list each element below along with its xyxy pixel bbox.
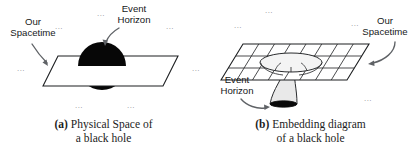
our-spacetime-arrow <box>373 42 395 63</box>
our-spacetime-label-line1: Our <box>25 16 42 27</box>
event-horizon-label-line1: Event <box>122 3 147 14</box>
panel-b-caption-tag: (b) <box>255 118 269 130</box>
panel-b-caption: (b) Embedding diagram of a black hole <box>207 118 414 145</box>
ellipsis-dots: ... <box>127 101 135 110</box>
event-horizon-disc <box>270 101 297 107</box>
ellipsis-dots: ... <box>97 9 105 18</box>
event-horizon-arrow <box>106 28 119 42</box>
our-spacetime-label-line2: Spacetime <box>10 27 55 38</box>
ellipsis-dots: ... <box>17 64 25 73</box>
ellipsis-dots: ... <box>234 21 242 30</box>
panel-b-caption-line2: of a black hole <box>207 132 414 146</box>
our-spacetime-arrowhead-icon <box>43 60 49 67</box>
our-spacetime-label-line2: Spacetime <box>362 26 407 37</box>
figure-root: ... ... ... ... ... ... ... Our Spacetim… <box>0 0 414 162</box>
ellipsis-dots: ... <box>166 22 174 31</box>
our-spacetime-arrowhead-icon <box>368 61 375 67</box>
event-horizon-arrowhead-icon <box>264 105 270 111</box>
event-horizon-label-line2: Horizon <box>117 14 150 25</box>
ellipsis-dots: ... <box>364 94 372 103</box>
panel-a-caption: (a) Physical Space of a black hole <box>0 118 207 145</box>
ellipsis-dots: ... <box>55 22 63 31</box>
panel-b-diagram: ... ... ... ... <box>207 0 414 118</box>
panel-a-caption-line1: Physical Space of <box>71 118 153 130</box>
panel-a-caption-line2: a black hole <box>0 132 207 146</box>
our-spacetime-label-line1: Our <box>377 15 394 26</box>
panel-b-caption-line1: Embedding diagram <box>272 118 366 130</box>
ellipsis-dots: ... <box>265 6 273 15</box>
panel-a: ... ... ... ... ... ... ... Our Spacetim… <box>0 0 207 162</box>
our-spacetime-arrow <box>32 44 47 63</box>
event-horizon-arrow <box>241 99 265 108</box>
panel-a-diagram: ... ... ... ... ... ... ... Our Spacetim… <box>0 0 207 118</box>
ellipsis-dots: ... <box>351 19 359 28</box>
event-horizon-sphere-upper <box>78 42 126 66</box>
panel-b: ... ... ... ... <box>207 0 414 162</box>
ellipsis-dots: ... <box>75 101 83 110</box>
event-horizon-label-line2: Horizon <box>220 85 253 96</box>
ellipsis-dots: ... <box>192 64 200 73</box>
event-horizon-label-line1: Event <box>225 74 250 85</box>
panel-a-caption-tag: (a) <box>54 118 67 130</box>
